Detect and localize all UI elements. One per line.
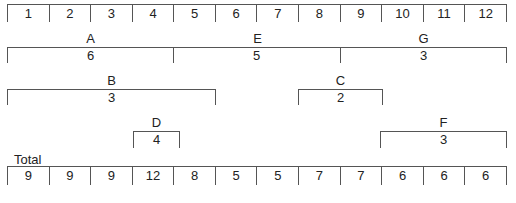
period-cell: 10 [381, 5, 423, 22]
total-cell: 9 [49, 167, 91, 185]
task-duration-b: 3 [108, 90, 115, 105]
total-cell: 8 [173, 167, 215, 185]
task-bracket-e: 5 [173, 47, 341, 63]
period-cell: 3 [90, 5, 132, 22]
period-cell: 5 [173, 5, 215, 22]
period-cell: 6 [215, 5, 257, 22]
task-bracket-g: 3 [340, 47, 507, 63]
task-label-f: F [380, 115, 507, 130]
task-bracket-a: 6 [7, 47, 174, 63]
total-cell: 7 [298, 167, 340, 185]
period-cell: 7 [256, 5, 298, 22]
total-cell: 5 [215, 167, 257, 185]
total-cell: 6 [464, 167, 507, 185]
total-cell: 9 [7, 167, 49, 185]
task-duration-g: 3 [420, 48, 427, 63]
period-cell: 12 [464, 5, 507, 22]
period-cell: 4 [132, 5, 174, 22]
task-duration-a: 6 [87, 48, 94, 63]
task-bracket-d: 4 [133, 131, 180, 148]
task-label-c: C [298, 73, 383, 88]
total-cell: 5 [256, 167, 298, 185]
total-label: Total [14, 152, 41, 167]
period-header-row: 1 2 3 4 5 6 7 8 9 10 11 12 [7, 4, 507, 22]
total-cell: 6 [423, 167, 465, 185]
total-cell: 7 [340, 167, 382, 185]
total-cell: 12 [132, 167, 174, 185]
task-label-d: D [133, 115, 180, 130]
total-row: 9 9 9 12 8 5 5 7 7 6 6 6 [7, 166, 507, 185]
task-label-b: B [7, 73, 216, 88]
task-label-a: A [7, 31, 174, 46]
period-cell: 8 [298, 5, 340, 22]
period-cell: 1 [7, 5, 49, 22]
task-duration-d: 4 [153, 132, 160, 147]
task-duration-f: 3 [440, 132, 447, 147]
period-cell: 2 [49, 5, 91, 22]
task-label-e: E [174, 31, 341, 46]
period-cell: 11 [423, 5, 465, 22]
period-cell: 9 [340, 5, 382, 22]
task-duration-e: 5 [253, 48, 260, 63]
task-bracket-f: 3 [380, 131, 507, 148]
total-cell: 9 [90, 167, 132, 185]
task-label-g: G [340, 31, 507, 46]
task-duration-c: 2 [337, 90, 344, 105]
task-bracket-c: 2 [298, 89, 383, 105]
total-cell: 6 [381, 167, 423, 185]
task-bracket-b: 3 [7, 89, 216, 105]
